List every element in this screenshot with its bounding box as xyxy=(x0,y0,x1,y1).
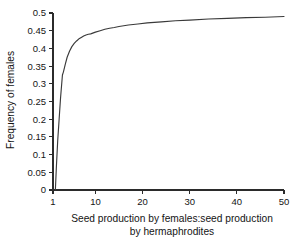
y-axis-tick-label: 0.2 xyxy=(33,114,46,125)
y-axis-tick-label: 0 xyxy=(41,184,46,195)
y-axis-tick-labels: 00.050.10.150.20.250.30.350.40.450.5 xyxy=(28,7,47,195)
x-axis-title-line-2: by hermaphrodites xyxy=(130,226,214,237)
y-axis-title: Frequency of females xyxy=(5,51,16,149)
x-axis-tick-label: 20 xyxy=(137,196,148,207)
x-axis-tick-labels: 11020304050 xyxy=(50,196,289,207)
data-series-line xyxy=(55,17,284,190)
x-axis-ticks xyxy=(53,190,284,194)
y-axis-tick-label: 0.5 xyxy=(33,7,46,18)
x-axis-tick-label: 30 xyxy=(184,196,195,207)
axes-group xyxy=(49,13,284,194)
y-axis-tick-label: 0.35 xyxy=(28,61,47,72)
y-axis-tick-label: 0.05 xyxy=(28,167,47,178)
chart-figure: 00.050.10.150.20.250.30.350.40.450.5 110… xyxy=(0,0,299,246)
x-axis-title-line-1: Seed production by females:seed producti… xyxy=(71,213,273,224)
y-axis-tick-label: 0.25 xyxy=(28,96,47,107)
y-axis-tick-label: 0.4 xyxy=(33,43,46,54)
y-axis-tick-label: 0.3 xyxy=(33,78,46,89)
x-axis-tick-label: 1 xyxy=(50,196,55,207)
x-axis-tick-label: 40 xyxy=(232,196,243,207)
y-axis-tick-label: 0.1 xyxy=(33,149,46,160)
line-chart: 00.050.10.150.20.250.30.350.40.450.5 110… xyxy=(0,0,299,246)
x-axis-tick-label: 50 xyxy=(279,196,290,207)
x-axis-tick-label: 10 xyxy=(90,196,101,207)
y-axis-tick-label: 0.45 xyxy=(28,25,47,36)
y-axis-tick-label: 0.15 xyxy=(28,131,47,142)
y-axis-ticks xyxy=(49,13,53,190)
